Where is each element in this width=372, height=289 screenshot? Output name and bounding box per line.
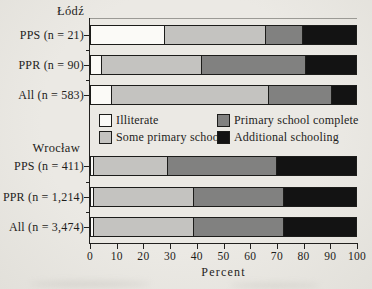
bar-segment-additional-schooling: [284, 188, 356, 206]
bar-row-0-1: [90, 55, 357, 75]
bar-segment-primary-school-complete: [194, 218, 284, 236]
x-axis-tick: [250, 243, 251, 249]
bar-segment-illiterate: [91, 26, 165, 44]
bar-row-0-2: [90, 85, 357, 105]
legend-swatch-primary-school-complete: [217, 114, 230, 127]
legend-label-illiterate: Illiterate: [116, 114, 159, 127]
group-label-lodz: Łódź: [57, 4, 84, 19]
bar-row-0-0: [90, 25, 357, 45]
x-axis-title: Percent: [90, 265, 357, 280]
bar-row-1-1: [90, 187, 357, 207]
y-axis-minor-tick: [86, 50, 90, 51]
bar-row-1-0: [90, 156, 357, 176]
bar-segment-additional-schooling: [303, 26, 356, 44]
x-axis-tick: [304, 243, 305, 249]
row-label-1-2: All (n = 3,474): [0, 220, 84, 234]
y-axis-tick: [84, 166, 90, 167]
scan-artifact: [30, 281, 150, 287]
bar-segment-additional-schooling: [284, 218, 356, 236]
bar-segment-illiterate: [91, 56, 102, 74]
legend-swatch-some-primary-school: [99, 131, 112, 144]
scan-artifact: [230, 283, 320, 288]
legend-label-primary-school-complete: Primary school complete: [234, 114, 359, 127]
x-axis-tick: [197, 243, 198, 249]
row-label-0-1: PPR (n = 90): [0, 58, 84, 72]
bar-segment-primary-school-complete: [168, 157, 277, 175]
bar-segment-additional-schooling: [332, 86, 356, 104]
plot-top-frame-line: [90, 18, 357, 19]
bar-segment-illiterate: [91, 86, 112, 104]
legend-label-additional-schooling: Additional schooling: [234, 131, 339, 144]
legend-swatch-additional-schooling: [217, 131, 230, 144]
bar-segment-some-primary-school: [112, 86, 268, 104]
bar-segment-primary-school-complete: [269, 86, 333, 104]
bar-segment-primary-school-complete: [266, 26, 303, 44]
y-axis-minor-tick: [86, 212, 90, 213]
legend-swatch-illiterate: [99, 114, 112, 127]
bar-segment-some-primary-school: [94, 218, 195, 236]
bar-segment-primary-school-complete: [194, 188, 284, 206]
bar-segment-additional-schooling: [277, 157, 357, 175]
x-axis-tick: [90, 243, 91, 249]
bar-segment-some-primary-school: [165, 26, 266, 44]
row-label-1-1: PPR (n = 1,214): [0, 190, 84, 204]
bar-row-1-2: [90, 217, 357, 237]
x-axis-tick: [143, 243, 144, 249]
x-axis-tick: [117, 243, 118, 249]
stacked-bar-chart-figure: Łódź Wrocław PPS (n = 21)PPR (n = 90)All…: [0, 0, 372, 289]
y-axis-minor-tick: [86, 182, 90, 183]
bar-segment-some-primary-school: [102, 56, 203, 74]
x-axis-tick: [277, 243, 278, 249]
bar-segment-some-primary-school: [94, 157, 168, 175]
y-axis-tick: [84, 35, 90, 36]
group-label-wroclaw: Wrocław: [33, 141, 80, 156]
x-axis-tick: [330, 243, 331, 249]
y-axis-tick: [84, 95, 90, 96]
y-axis-line: [89, 18, 90, 244]
row-label-0-2: All (n = 583): [0, 88, 84, 102]
x-axis-tick: [170, 243, 171, 249]
row-label-1-0: PPS (n = 411): [0, 159, 84, 173]
bar-segment-additional-schooling: [306, 56, 356, 74]
legend-label-some-primary-school: Some primary school: [116, 131, 222, 144]
row-label-0-0: PPS (n = 21): [0, 28, 84, 42]
y-axis-tick: [84, 197, 90, 198]
x-tick-label-100: 100: [340, 250, 372, 262]
y-axis-minor-tick: [86, 80, 90, 81]
bar-segment-primary-school-complete: [202, 56, 305, 74]
y-axis-tick: [84, 65, 90, 66]
y-axis-tick: [84, 227, 90, 228]
x-axis-tick: [357, 243, 358, 249]
x-axis-tick: [224, 243, 225, 249]
bar-segment-some-primary-school: [94, 188, 195, 206]
